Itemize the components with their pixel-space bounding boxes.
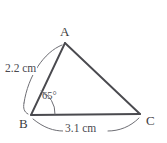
side-bc-dimension-arc-right — [108, 118, 139, 131]
angle-b-measure-label: 65° — [42, 91, 57, 102]
vertex-label-a: A — [60, 25, 69, 38]
geometry-figure: A B C 2.2 cm 3.1 cm 65° — [0, 0, 167, 143]
vertex-label-c: C — [146, 114, 155, 127]
vertex-label-b: B — [19, 117, 28, 130]
side-ab-length-label: 2.2 cm — [4, 63, 37, 75]
side-ac-line — [65, 43, 140, 114]
side-bc-length-label: 3.1 cm — [63, 123, 98, 135]
side-bc-line — [31, 114, 140, 115]
side-ab-dimension-arc-tail — [24, 103, 28, 114]
side-bc-dimension-arc-left — [33, 119, 63, 131]
